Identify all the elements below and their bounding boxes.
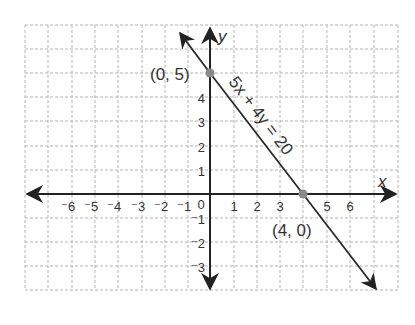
point-y-intercept-label: (0, 5) [150,65,190,84]
x-tick: 6 [346,199,353,214]
x-tick: 2 [253,199,260,214]
equation-line-lower [210,73,376,289]
y-tick: ⁻3 [191,260,205,275]
y-axis-label: y [217,27,228,46]
x-tick: ⁻2 [154,199,168,214]
x-tick-labels: ⁻6 ⁻5 ⁻4 ⁻3 ⁻2 ⁻1 0 1 2 3 5 6 [61,197,354,214]
x-tick: 3 [276,199,283,214]
x-tick: 5 [323,199,330,214]
x-tick: ⁻6 [61,199,75,214]
y-tick: 1 [198,164,205,179]
x-tick: ⁻3 [131,199,145,214]
y-tick: ⁻1 [191,212,205,227]
x-tick: 1 [230,199,237,214]
x-axis-label: x [377,172,387,191]
x-tick: ⁻4 [107,199,121,214]
x-tick: ⁻5 [84,199,98,214]
x-tick: ⁻1 [177,199,191,214]
point-y-intercept [206,69,215,78]
point-x-intercept-label: (4, 0) [272,221,312,240]
origin-label: 0 [197,197,204,212]
grid [25,25,398,290]
y-tick: 2 [198,140,205,155]
y-tick-labels: 1 2 3 4 ⁻1 ⁻2 ⁻3 [191,91,205,275]
y-tick: 4 [198,91,205,106]
y-tick: 3 [198,115,205,130]
coordinate-plane: x y ⁻6 ⁻5 ⁻4 ⁻3 ⁻2 ⁻1 0 1 2 3 5 6 1 2 3 … [0,0,415,325]
point-x-intercept [299,190,308,199]
y-tick: ⁻2 [191,236,205,251]
